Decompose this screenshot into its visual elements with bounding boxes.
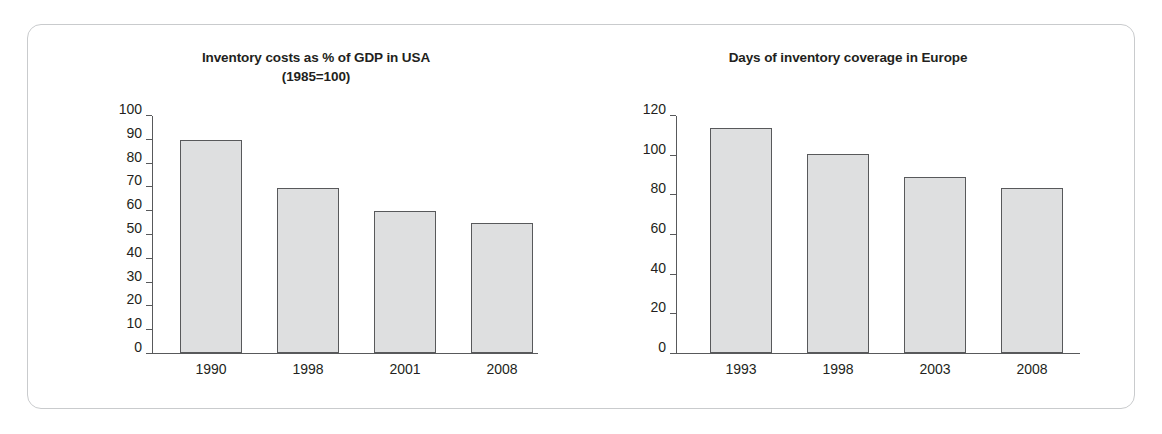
y-tick-label-usa-100: 100 bbox=[119, 102, 142, 116]
chart-panel-usa: Inventory costs as % of GDP in USA (1985… bbox=[56, 25, 576, 408]
y-tick-label-europe-120: 120 bbox=[643, 102, 666, 116]
bar-slot: 2008 bbox=[471, 116, 533, 353]
y-tick-europe-100 bbox=[670, 155, 676, 156]
y-tick-label-europe-20: 20 bbox=[650, 300, 666, 314]
y-tick-europe-40 bbox=[670, 274, 676, 275]
y-tick-europe-20 bbox=[670, 313, 676, 314]
x-tick-label-europe-2008: 2008 bbox=[973, 362, 1091, 376]
chart-title-usa: Inventory costs as % of GDP in USA (1985… bbox=[56, 48, 576, 86]
y-tick-usa-10 bbox=[146, 329, 152, 330]
bar-usa-2008 bbox=[471, 223, 533, 353]
chart-panel-europe: Days of inventory coverage in Europe 020… bbox=[588, 25, 1108, 408]
y-tick-usa-90 bbox=[146, 139, 152, 140]
chart-title-europe: Days of inventory coverage in Europe bbox=[588, 48, 1108, 67]
y-tick-europe-0 bbox=[670, 353, 676, 354]
y-tick-label-usa-50: 50 bbox=[126, 221, 142, 235]
y-tick-usa-70 bbox=[146, 186, 152, 187]
chart-title-europe-main: Days of inventory coverage in Europe bbox=[729, 50, 968, 65]
x-tick-label-usa-2008: 2008 bbox=[443, 362, 561, 376]
figure-frame: Inventory costs as % of GDP in USA (1985… bbox=[27, 24, 1135, 409]
bar-group-europe: 1993199820032008 bbox=[677, 116, 1086, 353]
bar-slot: 2001 bbox=[374, 116, 436, 353]
plot-area-usa: 0102030405060708090100 1990199820012008 bbox=[152, 116, 552, 354]
bar-slot: 1998 bbox=[277, 116, 339, 353]
y-tick-label-europe-60: 60 bbox=[650, 221, 666, 235]
bar-usa-1998 bbox=[277, 188, 339, 353]
bar-slot: 2003 bbox=[904, 116, 966, 353]
bar-europe-1993 bbox=[710, 128, 772, 353]
y-tick-usa-40 bbox=[146, 258, 152, 259]
y-tick-usa-30 bbox=[146, 282, 152, 283]
chart-title-usa-subtitle: (1985=100) bbox=[56, 67, 576, 86]
y-tick-label-usa-60: 60 bbox=[126, 197, 142, 211]
y-tick-europe-80 bbox=[670, 194, 676, 195]
y-tick-label-europe-0: 0 bbox=[658, 340, 666, 354]
y-tick-label-usa-10: 10 bbox=[126, 316, 142, 330]
bar-slot: 1993 bbox=[710, 116, 772, 353]
y-tick-usa-100 bbox=[146, 115, 152, 116]
y-tick-usa-80 bbox=[146, 163, 152, 164]
y-tick-usa-50 bbox=[146, 234, 152, 235]
y-tick-usa-60 bbox=[146, 210, 152, 211]
y-tick-label-europe-80: 80 bbox=[650, 181, 666, 195]
bar-slot: 2008 bbox=[1001, 116, 1063, 353]
bar-group-usa: 1990199820012008 bbox=[153, 116, 552, 353]
y-tick-label-usa-20: 20 bbox=[126, 292, 142, 306]
bar-europe-2003 bbox=[904, 177, 966, 353]
y-tick-label-usa-90: 90 bbox=[126, 126, 142, 140]
bar-slot: 1990 bbox=[180, 116, 242, 353]
chart-title-usa-main: Inventory costs as % of GDP in USA bbox=[202, 50, 430, 65]
y-tick-europe-60 bbox=[670, 234, 676, 235]
plot-area-europe: 020406080100120 1993199820032008 bbox=[676, 116, 1086, 354]
y-tick-label-usa-0: 0 bbox=[134, 340, 142, 354]
y-tick-europe-120 bbox=[670, 115, 676, 116]
bar-europe-2008 bbox=[1001, 188, 1063, 353]
y-tick-label-usa-70: 70 bbox=[126, 173, 142, 187]
x-axis-europe bbox=[676, 353, 1080, 354]
bar-usa-1990 bbox=[180, 140, 242, 353]
y-tick-label-usa-80: 80 bbox=[126, 150, 142, 164]
bar-europe-1998 bbox=[807, 154, 869, 353]
y-tick-label-usa-40: 40 bbox=[126, 245, 142, 259]
y-tick-label-europe-40: 40 bbox=[650, 261, 666, 275]
y-tick-label-usa-30: 30 bbox=[126, 269, 142, 283]
bar-usa-2001 bbox=[374, 211, 436, 353]
y-tick-usa-0 bbox=[146, 353, 152, 354]
bar-slot: 1998 bbox=[807, 116, 869, 353]
x-axis-usa bbox=[152, 353, 538, 354]
y-tick-label-europe-100: 100 bbox=[643, 142, 666, 156]
y-tick-usa-20 bbox=[146, 305, 152, 306]
